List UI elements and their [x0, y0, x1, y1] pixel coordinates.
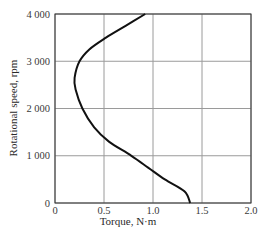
y-tick-label: 0 [45, 198, 50, 209]
x-tick-label: 0 [52, 205, 57, 216]
y-axis-label: Rotational speed, rpm [7, 59, 19, 156]
x-tick-label: 2.0 [244, 205, 257, 216]
y-tick-label: 4 000 [26, 9, 50, 20]
y-tick-label: 1 000 [26, 150, 50, 161]
x-tick-label: 1.5 [195, 205, 208, 216]
torque-speed-chart: 01 0002 0003 0004 000 00.51.01.52.0 Torq… [0, 0, 265, 239]
x-axis-label: Torque, N·m [100, 215, 157, 227]
y-tick-label: 2 000 [26, 103, 50, 114]
grid-lines [55, 14, 251, 203]
y-axis-ticks: 01 0002 0003 0004 000 [26, 9, 50, 209]
y-tick-label: 3 000 [26, 56, 50, 67]
